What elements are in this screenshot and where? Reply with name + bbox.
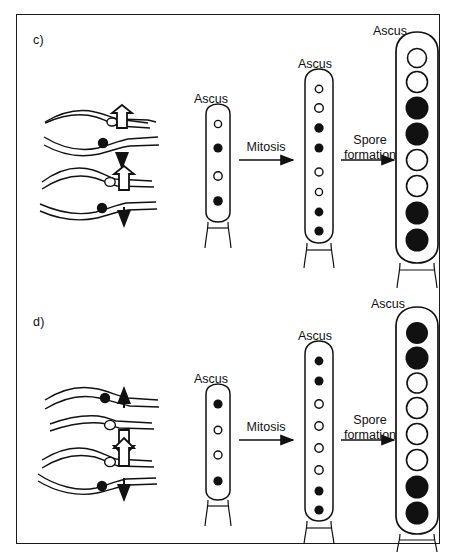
spore-open xyxy=(408,49,427,68)
spore-filled xyxy=(406,322,428,344)
spore-open xyxy=(407,398,428,419)
ascus-label-d-1: Ascus xyxy=(194,372,228,386)
nucleus-filled xyxy=(315,144,324,153)
nucleus-open xyxy=(315,104,324,113)
spore-open xyxy=(407,373,427,393)
ascus-label-d-3: Ascus xyxy=(371,297,405,311)
nucleus-open xyxy=(315,188,322,195)
spore-open xyxy=(407,424,428,445)
ascus-d-2[interactable] xyxy=(304,341,334,544)
nucleus-filled xyxy=(213,399,222,408)
nucleus-open xyxy=(214,172,222,180)
nucleus-filled xyxy=(213,143,222,152)
spore-formation-line1-d: Spore xyxy=(353,413,386,427)
nucleus-filled xyxy=(315,487,324,496)
figure-root: c) d) Ascus Ascus Ascus Mitosis Spore fo… xyxy=(0,0,457,560)
spore-formation-line2-c: formation xyxy=(344,148,396,162)
nucleus-open xyxy=(315,444,323,452)
nucleus-filled xyxy=(315,208,324,217)
nucleus-open xyxy=(315,168,323,176)
spore-filled xyxy=(406,502,429,525)
spore-filled xyxy=(406,202,429,225)
nucleus-filled xyxy=(315,377,324,386)
ascus-d-3[interactable] xyxy=(396,307,438,552)
panel-label-c: c) xyxy=(33,33,44,47)
spore-open xyxy=(407,450,428,471)
panel-label-d: d) xyxy=(33,315,45,329)
mitosis-label-c: Mitosis xyxy=(234,140,298,155)
spore-formation-label-c: Spore formation xyxy=(339,133,401,163)
spore-formation-line2-d: formation xyxy=(344,428,396,442)
nucleus-filled xyxy=(314,505,323,514)
spore-formation-label-d: Spore formation xyxy=(339,413,401,443)
ascus-label-c-1: Ascus xyxy=(194,92,228,106)
ascus-c-3[interactable] xyxy=(396,32,438,288)
nucleus-filled xyxy=(213,476,222,485)
spore-filled xyxy=(406,123,429,146)
nucleus-open xyxy=(315,85,322,92)
spore-filled xyxy=(406,229,429,252)
mitosis-label-d: Mitosis xyxy=(234,420,298,435)
nucleus-open xyxy=(214,426,222,434)
nucleus-open xyxy=(315,466,323,474)
ascus-c-2[interactable] xyxy=(304,69,334,268)
nucleus-filled xyxy=(314,123,323,132)
spore-filled xyxy=(406,476,429,499)
spore-filled xyxy=(406,97,429,120)
ascus-label-c-3: Ascus xyxy=(373,24,407,38)
nucleus-filled xyxy=(213,196,223,206)
nucleus-open xyxy=(315,400,323,408)
spore-open xyxy=(407,176,428,197)
spore-open xyxy=(407,72,428,93)
spore-open xyxy=(407,150,428,171)
nucleus-filled xyxy=(314,226,323,235)
nucleus-filled xyxy=(315,357,324,366)
nucleus-open xyxy=(315,422,323,430)
spore-formation-line1-c: Spore xyxy=(353,133,386,147)
nucleus-open xyxy=(214,120,221,127)
spore-filled xyxy=(406,347,429,370)
nucleus-open xyxy=(214,451,222,459)
